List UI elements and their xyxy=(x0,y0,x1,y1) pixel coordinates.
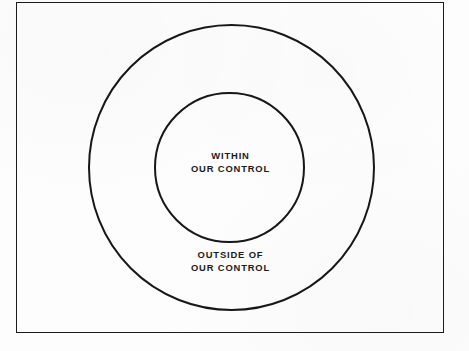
inner-circle-label: WITHIN OUR CONTROL xyxy=(0,150,461,175)
inner-label-line-2: OUR CONTROL xyxy=(0,163,461,176)
outer-circle-label: OUTSIDE OF OUR CONTROL xyxy=(0,249,461,274)
diagram-canvas: WITHIN OUR CONTROL OUTSIDE OF OUR CONTRO… xyxy=(0,0,469,351)
inner-label-line-1: WITHIN xyxy=(0,150,461,163)
outer-label-line-2: OUR CONTROL xyxy=(0,262,461,275)
outer-label-line-1: OUTSIDE OF xyxy=(0,249,461,262)
